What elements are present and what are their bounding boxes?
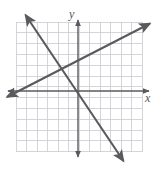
y-axis-label: y: [69, 8, 74, 20]
coordinate-plane-svg: [0, 0, 163, 173]
graph-figure: y x: [0, 0, 163, 173]
x-axis-label: x: [145, 92, 150, 104]
